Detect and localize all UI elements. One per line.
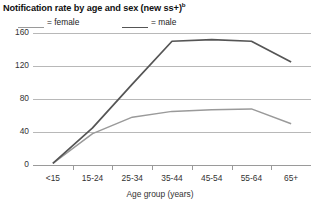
chart-container: Notification rate by age and sex (new ss… [0,0,320,206]
x-axis-tick [73,165,74,170]
x-axis-tick [112,165,113,170]
series-line-male [53,40,291,164]
x-axis-tick [192,165,193,170]
x-axis-tick [232,165,233,170]
x-axis-title: Age group (years) [0,189,320,199]
x-axis-tick [271,165,272,170]
x-axis-tick [152,165,153,170]
series-line-female [53,109,291,163]
x-axis-tick-label: 65+ [266,173,316,183]
